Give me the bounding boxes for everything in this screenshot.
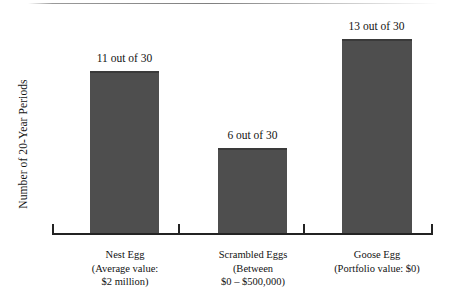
bar-value-label-scrambled-eggs: 6 out of 30 [202, 129, 303, 141]
x-axis-category-label-nest-egg: Nest Egg (Average value: $2 million) [55, 248, 195, 289]
bar-value-label-nest-egg: 11 out of 30 [74, 52, 175, 64]
bar-goose-egg [342, 39, 412, 233]
bar-scrambled-eggs [218, 148, 287, 233]
bar-nest-egg [90, 71, 159, 233]
category-line-1: Nest Egg [55, 248, 195, 262]
x-axis-tick-1 [178, 224, 180, 233]
bar-value-label-goose-egg: 13 out of 30 [326, 20, 427, 32]
category-line-2: (Between [183, 262, 323, 276]
plot-area: 11 out of 30 6 out of 30 13 out of 30 Ne… [0, 0, 452, 302]
category-line-3: $0 – $500,000) [183, 275, 323, 289]
x-axis-tick-2 [303, 224, 305, 233]
category-line-1: Goose Egg [307, 248, 447, 262]
category-line-3: $2 million) [55, 275, 195, 289]
x-axis-tick-3 [431, 224, 433, 233]
x-axis-tick-0 [52, 224, 54, 233]
category-line-2: (Portfolio value: $0) [307, 262, 447, 276]
category-line-1: Scrambled Eggs [183, 248, 323, 262]
bar-chart-figure: Number of 20-Year Periods 11 out of 30 6… [0, 0, 452, 302]
x-axis-category-label-goose-egg: Goose Egg (Portfolio value: $0) [307, 248, 447, 275]
x-axis-baseline [52, 233, 433, 235]
x-axis-category-label-scrambled-eggs: Scrambled Eggs (Between $0 – $500,000) [183, 248, 323, 289]
category-line-2: (Average value: [55, 262, 195, 276]
